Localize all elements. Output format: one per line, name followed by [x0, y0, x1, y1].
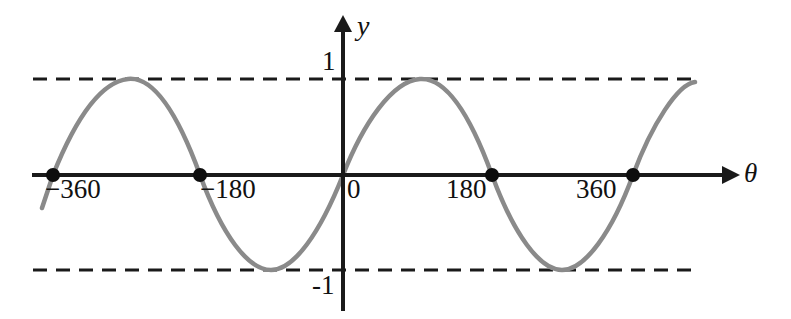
x-tick-label-180: 180 [446, 176, 487, 203]
y-tick-label-one: 1 [322, 48, 336, 75]
y-axis-label-y: y [357, 12, 369, 40]
x-tick-label-zero: 0 [347, 176, 361, 203]
x-tick-label-neg180: −180 [200, 176, 256, 203]
y-tick-label-neg-one: -1 [312, 272, 335, 299]
marked-point-360 [626, 168, 640, 182]
plot-canvas [0, 0, 791, 319]
marked-point-180 [485, 168, 499, 182]
sine-graph-figure: −360 −180 0 180 360 1 -1 θ y [0, 0, 791, 319]
y-axis-arrowhead [334, 15, 352, 32]
x-tick-label-360: 360 [576, 176, 617, 203]
x-axis-label-theta: θ [744, 160, 757, 187]
x-axis-arrowhead [722, 166, 740, 184]
x-tick-label-neg360: −360 [45, 176, 101, 203]
